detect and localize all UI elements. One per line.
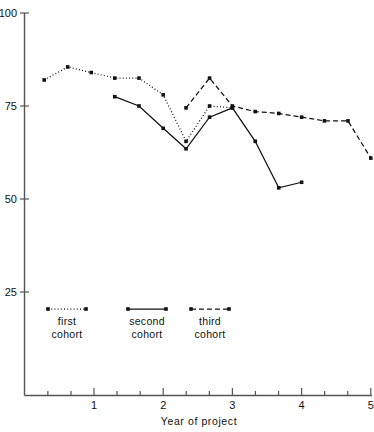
series-third-cohort	[184, 76, 372, 160]
legend-label-line1: third	[199, 315, 221, 327]
x-tick-label: 4	[299, 399, 305, 411]
y-tick-label: 75	[5, 100, 17, 112]
data-point	[208, 76, 212, 80]
chart-container: 255075100 12345 firstcohortsecondcohortt…	[0, 0, 374, 432]
legend-label-line1: second	[129, 315, 165, 327]
x-tick-label: 3	[229, 399, 235, 411]
legend-label-line1: first	[58, 315, 76, 327]
data-point	[66, 65, 70, 69]
x-tick-label: 5	[368, 399, 374, 411]
data-point	[184, 106, 188, 110]
data-point	[137, 76, 141, 80]
data-point	[161, 93, 165, 97]
legend-marker	[164, 307, 168, 311]
data-point	[277, 186, 281, 190]
legend-marker	[46, 307, 50, 311]
legend-label-line2: cohort	[195, 328, 226, 340]
series-layer	[42, 65, 372, 190]
data-point	[208, 115, 212, 119]
legend-marker	[84, 307, 88, 311]
data-point	[231, 104, 235, 108]
chart-legend: firstcohortsecondcohortthirdcohort	[46, 307, 231, 340]
series-second-cohort	[113, 95, 303, 190]
legend-marker	[126, 307, 130, 311]
data-point	[369, 156, 373, 160]
data-point	[346, 119, 350, 123]
x-axis-tick-labels: 12345	[91, 399, 374, 411]
x-tick-label: 1	[91, 399, 97, 411]
y-tick-label: 50	[5, 193, 17, 205]
data-point	[184, 147, 188, 151]
legend-label-line2: cohort	[132, 328, 163, 340]
data-point	[253, 110, 257, 114]
data-point	[208, 104, 212, 108]
y-axis-tick-labels: 255075100	[0, 7, 17, 298]
legend-marker	[189, 307, 193, 311]
data-point	[300, 115, 304, 119]
data-point	[323, 119, 327, 123]
y-tick-label: 100	[0, 7, 17, 19]
data-point	[253, 140, 257, 144]
data-point	[89, 71, 93, 75]
legend-label-line2: cohort	[52, 328, 83, 340]
series-line	[115, 97, 302, 188]
data-point	[113, 95, 117, 99]
line-chart: 255075100 12345 firstcohortsecondcohortt…	[0, 0, 374, 432]
series-first-cohort	[42, 65, 234, 143]
data-point	[277, 112, 281, 116]
legend-item-third: thirdcohort	[189, 307, 231, 340]
x-tick-label: 2	[160, 399, 166, 411]
series-line	[186, 78, 371, 158]
data-point	[137, 104, 141, 108]
data-point	[113, 76, 117, 80]
y-tick-label: 25	[5, 286, 17, 298]
data-point	[161, 127, 165, 131]
legend-item-first: firstcohort	[46, 307, 88, 340]
data-point	[42, 78, 46, 82]
x-axis-title: Year of project	[161, 415, 237, 427]
x-axis-ticks	[48, 388, 371, 396]
legend-marker	[227, 307, 231, 311]
data-point	[300, 180, 304, 184]
data-point	[184, 140, 188, 144]
legend-item-second: secondcohort	[126, 307, 168, 340]
